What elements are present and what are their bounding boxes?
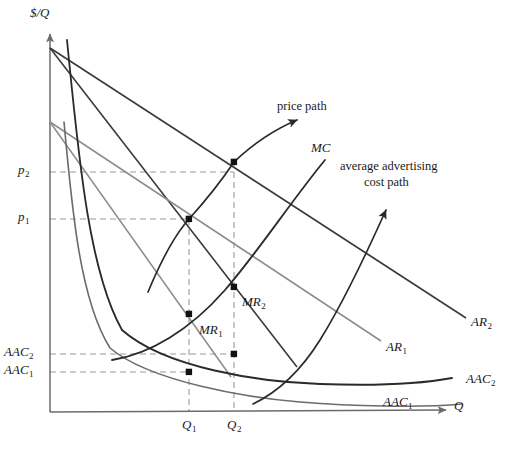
- x-tick-q1-sub: 1: [192, 424, 197, 434]
- x-tick-q2-sub: 2: [237, 424, 242, 434]
- mr1-label-text: MR: [199, 322, 218, 337]
- y-tick-p1-text: p: [18, 209, 25, 224]
- y-tick-p1: p1: [18, 210, 29, 225]
- y-axis-label: $/Q: [30, 6, 50, 21]
- point-MR1: [186, 311, 192, 317]
- aac2-curve-label-sub: 2: [491, 378, 496, 388]
- ar1-label-text: AR: [386, 339, 402, 354]
- x-axis-label: Q: [454, 399, 463, 414]
- y-tick-p2: p2: [18, 163, 29, 178]
- aac1-curve-label-text: AAC: [383, 394, 408, 409]
- point-AAC1-Q1: [186, 369, 192, 375]
- x-tick-q1: Q1: [182, 418, 196, 433]
- y-tick-aac2-text: AAC: [4, 344, 29, 359]
- mr1-label: MR1: [199, 323, 222, 338]
- x-tick-q1-text: Q: [182, 417, 191, 432]
- axes: [50, 34, 446, 412]
- price-path-arrow: [148, 120, 297, 292]
- ar2-label-text: AR: [471, 314, 487, 329]
- mr2-label: MR2: [242, 295, 265, 310]
- y-tick-aac2-sub: 2: [29, 351, 34, 361]
- x-tick-q2: Q2: [227, 418, 241, 433]
- price-path-label: price path: [277, 99, 327, 113]
- y-tick-p2-sub: 2: [25, 169, 30, 179]
- aac1-curve-label: AAC1: [383, 395, 412, 410]
- mc-label: MC: [311, 141, 331, 156]
- x-axis: [50, 410, 446, 412]
- y-tick-p1-sub: 1: [25, 216, 30, 226]
- point-p2-Q2: [231, 159, 237, 165]
- equilibrium-points: [186, 159, 237, 375]
- mr2-label-text: MR: [242, 294, 261, 309]
- x-tick-q2-text: Q: [227, 417, 236, 432]
- point-AAC2-Q2: [231, 351, 237, 357]
- mr1-label-sub: 1: [218, 329, 223, 339]
- y-tick-aac1: AAC1: [4, 363, 33, 378]
- ar2-label-sub: 2: [487, 321, 492, 331]
- aac2-curve-label: AAC2: [466, 372, 495, 387]
- y-tick-aac1-text: AAC: [4, 362, 29, 377]
- advertising-cost-path-label-line1: average advertising: [340, 159, 438, 173]
- advertising-cost-path-label-line2: cost path: [364, 175, 409, 189]
- ar1-label-sub: 1: [402, 346, 407, 356]
- point-p1-Q1: [186, 216, 192, 222]
- ar2-label: AR2: [471, 315, 491, 330]
- figure-canvas: $/Q Q p2 p1 AAC2 AAC1 Q1 Q2 price path M…: [0, 0, 510, 451]
- average-advertising-cost-2-curve: [67, 40, 452, 385]
- aac2-curve-label-text: AAC: [466, 371, 491, 386]
- y-tick-p2-text: p: [18, 162, 25, 177]
- marginal-revenue-1-line: [50, 122, 231, 377]
- y-tick-aac2: AAC2: [4, 345, 33, 360]
- mr2-label-sub: 2: [261, 301, 266, 311]
- aac1-curve-label-sub: 1: [408, 401, 413, 411]
- economics-plot: [0, 0, 510, 451]
- point-MR2: [231, 284, 237, 290]
- advertising-cost-path-arrow: [253, 210, 386, 404]
- ar1-label: AR1: [386, 340, 406, 355]
- y-tick-aac1-sub: 1: [29, 369, 34, 379]
